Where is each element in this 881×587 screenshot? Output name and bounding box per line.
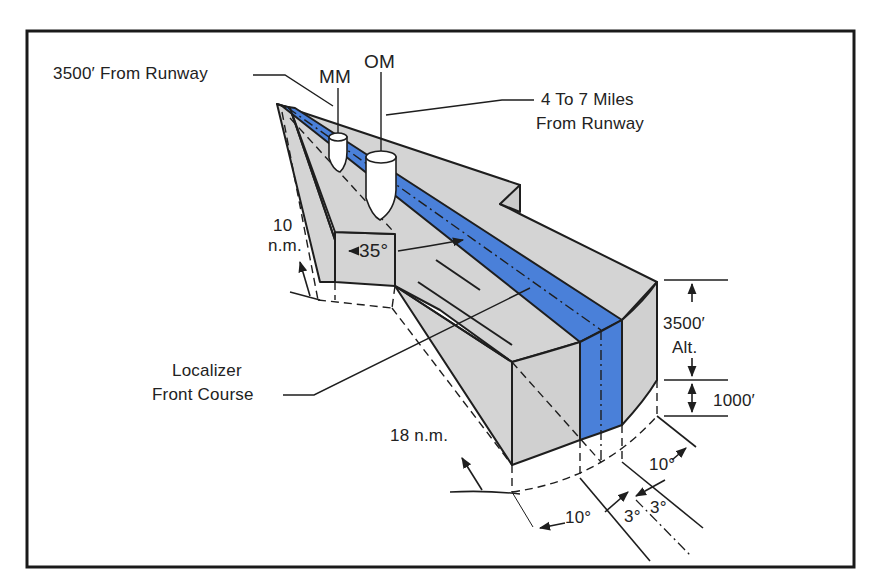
outer-marker-label: OM [364,52,395,72]
localizer-label-line2: Front Course [152,385,254,405]
localizer-label-line1: Localizer [172,361,242,381]
angle-10-right-label: 10° [649,455,675,475]
angle-10-left-label: 10° [565,508,591,528]
eighteen-nm-label: 18 n.m. [390,426,448,446]
om-distance-label-line1: 4 To 7 Miles [541,90,634,110]
middle-marker-label: MM [319,67,351,87]
angle-3-left-label: 3° [624,507,641,527]
angle-35-label: 35° [359,241,388,261]
om-distance-label-line2: From Runway [536,114,644,134]
altitude-3500-label-line1: 3500′ [663,314,705,334]
runway-distance-label: 3500′ From Runway [53,64,208,84]
ten-nm-label-line2: n.m. [268,236,302,256]
ten-nm-label-line1: 10 [273,216,292,236]
angle-3-right-label: 3° [650,498,667,518]
altitude-1000-label: 1000′ [713,391,755,411]
localizer-diagram [0,0,881,587]
altitude-3500-label-line2: Alt. [672,338,697,358]
